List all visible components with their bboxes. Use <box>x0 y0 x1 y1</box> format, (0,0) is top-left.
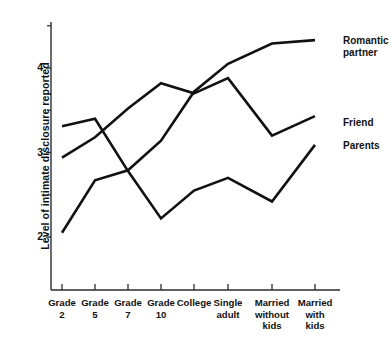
axis-lines <box>51 22 340 290</box>
chart-container: Level of intimate disclosure reported 23… <box>0 0 390 347</box>
y-ticks <box>46 26 51 237</box>
y-tick-label: 2 <box>27 231 43 242</box>
y-tick-label: 4 <box>27 62 43 73</box>
series-line-friend <box>62 78 315 157</box>
series-label-parents: Parents <box>343 140 380 152</box>
x-tick-label: Single adult <box>205 297 251 320</box>
plot-area <box>0 0 390 347</box>
y-tick-label: 3 <box>27 147 43 158</box>
x-ticks <box>62 284 315 290</box>
series-line-romantic-partner <box>62 40 315 233</box>
x-tick-label: Married without kids <box>249 297 295 332</box>
x-tick-label: Married with kids <box>292 297 338 332</box>
series-label-romantic-partner: Romantic partner <box>343 35 389 58</box>
series-label-friend: Friend <box>343 117 374 129</box>
